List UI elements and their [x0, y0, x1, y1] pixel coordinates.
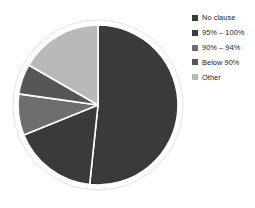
legend-item-label: Other — [202, 74, 221, 81]
legend-item-below-90[interactable]: Below 90% — [192, 59, 255, 66]
pie-chart-figure: No clause 95% – 100% 90% – 94% Below 90%… — [0, 0, 255, 208]
square-swatch-icon — [192, 15, 198, 21]
square-swatch-icon — [192, 30, 198, 36]
legend-item-95-100[interactable]: 95% – 100% — [192, 29, 255, 36]
pie-chart-svg — [0, 0, 190, 208]
legend-item-90-94[interactable]: 90% – 94% — [192, 44, 255, 51]
square-swatch-icon — [192, 59, 198, 65]
legend-item-other[interactable]: Other — [192, 74, 255, 81]
legend-item-label: Below 90% — [202, 59, 239, 66]
legend-item-label: 95% – 100% — [202, 29, 244, 36]
pie-slice[interactable] — [90, 25, 178, 185]
chart-legend: No clause 95% – 100% 90% – 94% Below 90%… — [192, 14, 255, 81]
pie-chart-plot-area — [0, 0, 190, 208]
legend-item-label: No clause — [202, 14, 235, 21]
legend-item-no-clause[interactable]: No clause — [192, 14, 255, 21]
legend-item-label: 90% – 94% — [202, 44, 240, 51]
square-swatch-icon — [192, 45, 198, 51]
square-swatch-icon — [192, 74, 198, 80]
